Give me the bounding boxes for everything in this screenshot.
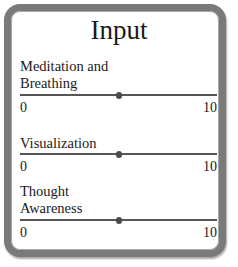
slider-track[interactable] [20, 217, 217, 225]
slider-track[interactable] [20, 92, 217, 100]
slider-max-label: 10 [203, 159, 217, 175]
slider-min-label: 0 [20, 100, 27, 116]
slider-thumb[interactable] [116, 92, 122, 99]
slider-thought-awareness: Thought Awareness 0 10 [20, 183, 217, 243]
panel-title: Input [0, 15, 238, 45]
slider-thumb[interactable] [116, 151, 122, 158]
slider-label: Visualization [20, 135, 217, 152]
slider-label-line2: Breathing [20, 75, 217, 92]
slider-visualization: Visualization 0 10 [20, 135, 217, 177]
slider-max-label: 10 [203, 225, 217, 241]
slider-min-label: 0 [20, 159, 27, 175]
slider-meditation-breathing: Meditation and Breathing 0 10 [20, 58, 217, 118]
slider-label: Thought [20, 183, 217, 200]
slider-min-label: 0 [20, 225, 27, 241]
slider-thumb[interactable] [116, 217, 122, 224]
slider-max-label: 10 [203, 100, 217, 116]
slider-label-line2: Awareness [20, 200, 217, 217]
slider-track[interactable] [20, 151, 217, 159]
slider-label: Meditation and [20, 58, 217, 75]
